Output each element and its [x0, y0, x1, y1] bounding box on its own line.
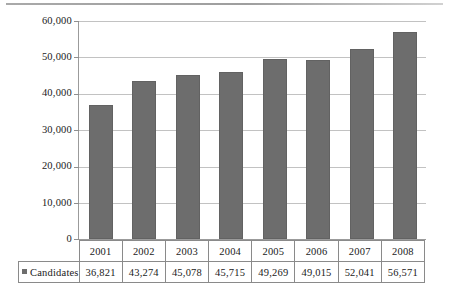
value-cell-2002: 43,274 [122, 262, 165, 283]
category-cell-2003: 2003 [165, 241, 208, 262]
series-label: Candidates [30, 267, 79, 278]
value-cell-2006: 49,015 [295, 262, 338, 283]
category-cell-2006: 2006 [295, 241, 338, 262]
y-tick-mark [74, 21, 79, 22]
y-tick-label: 30,000 [18, 125, 72, 136]
category-cell-2005: 2005 [252, 241, 295, 262]
bar-2003[interactable] [176, 75, 200, 239]
table-row-candidates: Candidates 36,821 43,274 45,078 45,715 4… [19, 262, 425, 283]
table-row-categories: 2001 2002 2003 2004 2005 2006 2007 2008 [19, 241, 425, 262]
value-cell-2003: 45,078 [165, 262, 208, 283]
bar-2004[interactable] [219, 72, 243, 239]
y-tick-mark [74, 94, 79, 95]
table-corner-cell [19, 241, 80, 262]
bar-2005[interactable] [263, 59, 287, 239]
legend-swatch-icon [22, 269, 27, 274]
category-cell-2002: 2002 [122, 241, 165, 262]
value-cell-2007: 52,041 [338, 262, 381, 283]
category-cell-2007: 2007 [338, 241, 381, 262]
y-tick-label: 40,000 [18, 88, 72, 99]
category-cell-2008: 2008 [381, 241, 424, 262]
gridline-60000 [79, 21, 426, 22]
category-cell-2001: 2001 [79, 241, 122, 262]
value-cell-2005: 49,269 [252, 262, 295, 283]
bar-2008[interactable] [393, 32, 417, 239]
y-tick-label: 50,000 [18, 52, 72, 63]
bar-2006[interactable] [306, 60, 330, 239]
plot-area [78, 21, 425, 240]
category-cell-2004: 2004 [209, 241, 252, 262]
y-tick-label: 60,000 [18, 16, 72, 27]
y-tick-mark [74, 57, 79, 58]
y-tick-label: 10,000 [18, 198, 72, 209]
bar-chart-figure: 60,000 50,000 40,000 30,000 20,000 10,00… [0, 0, 449, 289]
y-tick-label: 20,000 [18, 161, 72, 172]
value-cell-2008: 56,571 [381, 262, 424, 283]
series-legend-cell: Candidates [19, 262, 80, 283]
data-table: 2001 2002 2003 2004 2005 2006 2007 2008 … [18, 240, 425, 283]
bar-2001[interactable] [89, 105, 113, 239]
y-tick-mark [74, 167, 79, 168]
y-tick-mark [74, 130, 79, 131]
value-cell-2001: 36,821 [79, 262, 122, 283]
y-tick-mark [74, 203, 79, 204]
bar-2007[interactable] [350, 49, 374, 239]
value-cell-2004: 45,715 [209, 262, 252, 283]
bar-2002[interactable] [132, 81, 156, 239]
